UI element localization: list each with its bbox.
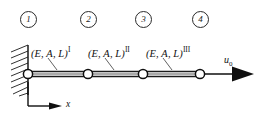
node-badge-3-label: 3 [141, 14, 146, 24]
element-label-2-base: (E, A, L) [88, 48, 125, 59]
element-label-1: (E, A, L)I [31, 45, 70, 59]
node-badge-1: 1 [20, 11, 37, 28]
node-badge-4: 4 [192, 11, 209, 28]
element-label-2: (E, A, L)II [88, 45, 130, 59]
x-axis-indicator [28, 82, 62, 110]
node-badge-3: 3 [135, 11, 152, 28]
bar-member [28, 72, 200, 77]
node-badge-2: 2 [80, 11, 97, 28]
node-badge-4-label: 4 [198, 14, 203, 24]
displacement-arrow [200, 67, 254, 82]
element-label-2-superscript: II [125, 45, 130, 54]
node-badge-2-label: 2 [86, 14, 91, 24]
element-label-3-base: (E, A, L) [146, 48, 183, 59]
element-label-1-base: (E, A, L) [31, 48, 68, 59]
x-axis-label: x [66, 99, 70, 109]
displacement-label: u0 [224, 54, 233, 68]
diagram-canvas [0, 0, 262, 122]
displacement-label-subscript: 0 [229, 60, 233, 68]
node-badge-1-label: 1 [26, 14, 31, 24]
bar-element-diagram: 1 2 3 4 (E, A, L)I (E, A, L)II (E, A, L)… [0, 0, 262, 122]
element-label-3: (E, A, L)III [146, 45, 190, 59]
element-label-1-superscript: I [68, 45, 71, 54]
element-leader-lines [48, 58, 172, 70]
element-label-3-superscript: III [183, 45, 191, 54]
